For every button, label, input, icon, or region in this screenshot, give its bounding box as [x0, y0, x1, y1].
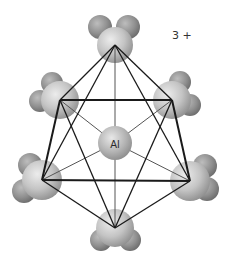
octahedral-complex-diagram: Al	[0, 0, 229, 260]
octahedron-edge	[115, 181, 190, 228]
octahedron-edge	[115, 45, 172, 100]
aluminum-atom: Al	[98, 126, 132, 160]
ion-charge-label: 3 +	[172, 29, 192, 42]
octahedron-edge	[115, 100, 172, 228]
water-upper-right	[153, 71, 201, 119]
octahedron-edge	[60, 45, 115, 100]
water-lower-left	[12, 153, 62, 203]
octahedron-edge	[42, 180, 190, 181]
water-upper-left	[29, 72, 79, 119]
water-top	[88, 15, 140, 63]
aluminum-label: Al	[110, 139, 120, 150]
water-lower-right	[170, 154, 219, 201]
octahedron-edge	[60, 100, 115, 228]
